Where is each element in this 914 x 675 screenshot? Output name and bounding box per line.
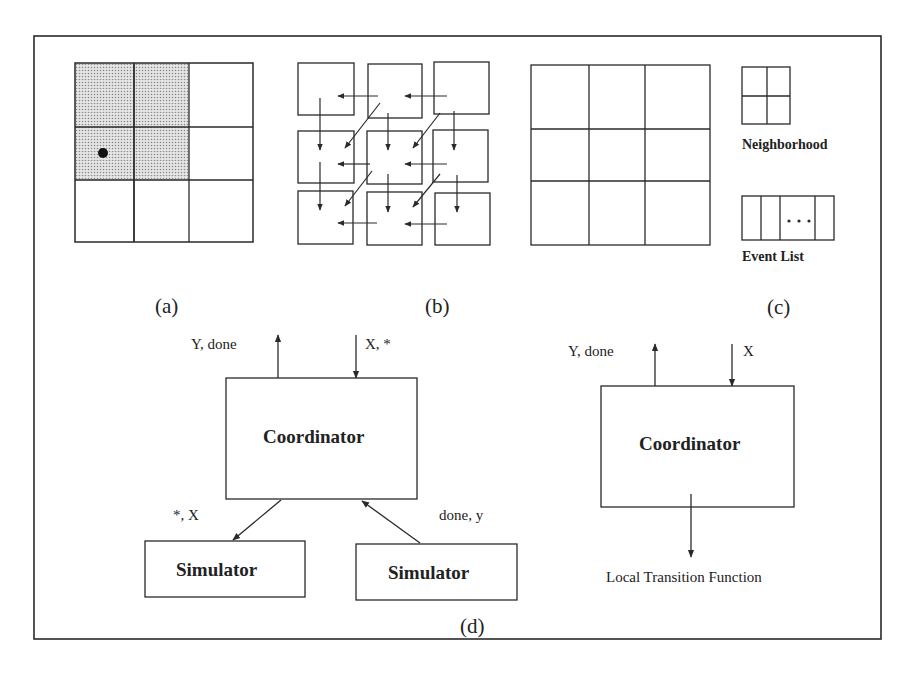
panel-b-cells bbox=[298, 62, 490, 245]
panel-b-label: (b) bbox=[425, 296, 450, 317]
coordinator-c-title: Coordinator bbox=[639, 434, 740, 453]
coordinator-d-output-label: Y, done bbox=[191, 337, 237, 352]
coordinator-d-title: Coordinator bbox=[263, 427, 364, 446]
panel-d-label: (d) bbox=[460, 616, 485, 637]
panel-c-label: (c) bbox=[767, 297, 790, 318]
figure-canvas: (a) (b) (c) (d) Neighborhood Event List … bbox=[0, 0, 914, 675]
panel-c-grid bbox=[531, 65, 710, 245]
to-simulator-label: *, X bbox=[173, 508, 199, 523]
from-simulator-label: done, y bbox=[439, 508, 483, 523]
neighborhood-legend-icon bbox=[742, 67, 790, 124]
simulator-right-title: Simulator bbox=[388, 563, 469, 582]
simulator-left-title: Simulator bbox=[176, 560, 257, 579]
shaded-neighborhood bbox=[75, 63, 189, 180]
local-transition-function-label: Local Transition Function bbox=[606, 570, 762, 585]
event-list-label: Event List bbox=[742, 250, 804, 264]
neighborhood-label: Neighborhood bbox=[742, 138, 828, 152]
coordinator-d-input-label: X, * bbox=[365, 337, 391, 352]
coordinator-c-output-label: Y, done bbox=[568, 344, 614, 359]
coordinator-c-input-label: X bbox=[743, 344, 754, 359]
panel-a-label: (a) bbox=[155, 296, 178, 317]
cell-dot bbox=[98, 148, 108, 158]
panel-a-grid bbox=[75, 63, 253, 242]
event-list-legend-icon bbox=[742, 196, 834, 240]
